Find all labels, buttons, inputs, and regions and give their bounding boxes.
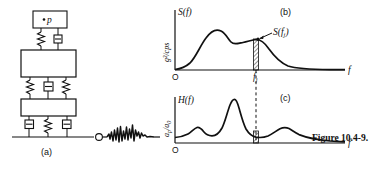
panel-b-origin-label: O: [172, 72, 179, 82]
panel-b-psd-curve: [175, 30, 345, 70]
panel-b-psd-chart: S(f) g²/cps f O S(fj) fj (b): [162, 7, 352, 83]
panel-b-y-axis-label: g²/cps: [162, 43, 171, 62]
mass-point-marker: [43, 18, 46, 21]
equipment-mass-box: [21, 50, 76, 77]
panel-b-annotation-arrowhead: [259, 36, 264, 39]
svg-text:ap/a0: ap/a0: [162, 121, 172, 137]
panel-b-value-marker: [256, 38, 259, 41]
spring-element: [27, 80, 34, 94]
figure-caption: Figure 10.4-9.: [312, 133, 368, 143]
panel-c-label: (c): [280, 93, 291, 103]
panel-b-hatched-strip: [254, 39, 259, 70]
mass-point-label: p: [46, 15, 52, 25]
figure-10-4-9: p: [0, 0, 384, 174]
panel-c-y-axis-label: ap/a0: [162, 121, 172, 137]
panel-a-mechanical-model: p: [12, 11, 160, 157]
panel-b-x-axis-label: f: [348, 65, 352, 75]
spring-element: [45, 119, 52, 133]
panel-c-curve-label: H(f): [177, 95, 194, 106]
structure-mass-box: [21, 99, 76, 116]
spring-element: [63, 80, 70, 94]
ground-point-marker: [96, 134, 103, 141]
panel-b-annotation-label: S(fj): [273, 27, 289, 38]
spring-element: [38, 32, 45, 46]
panel-a-label: (a): [41, 147, 52, 157]
panel-b-curve-label: S(f): [178, 7, 192, 18]
panel-b-tick-label: fj: [253, 72, 258, 83]
panel-c-transfer-chart: H(f) ap/a0 f O (c): [162, 93, 352, 155]
panel-c-origin-label: O: [172, 145, 179, 155]
random-vibration-waveform: [107, 125, 154, 142]
panel-b-label: (b): [280, 7, 291, 17]
